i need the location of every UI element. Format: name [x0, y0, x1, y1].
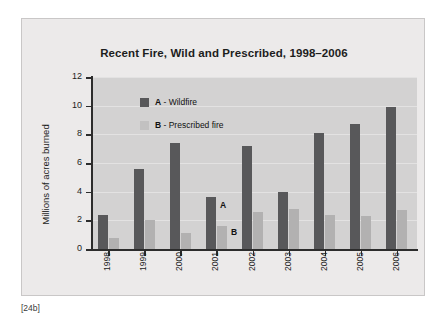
y-axis-tick — [86, 249, 92, 251]
chart-title: Recent Fire, Wild and Prescribed, 1998–2… — [22, 47, 426, 59]
data-point-label-a: A — [220, 200, 226, 210]
y-axis-tick-label: 12 — [42, 71, 82, 81]
x-axis-tick-label: 1999 — [138, 259, 150, 293]
bar-wildfire — [242, 146, 252, 249]
bar-prescribed-fire — [289, 209, 299, 249]
y-axis-tick — [86, 220, 92, 222]
x-axis-tick-label: 2006 — [391, 259, 403, 293]
bar-prescribed-fire — [397, 210, 407, 249]
data-point-label-b: B — [231, 227, 237, 237]
x-axis-tick-label: 2002 — [247, 259, 259, 293]
x-axis-tick-label-text: 2001 — [210, 259, 220, 271]
legend-item-prescribed-fire: B - Prescribed fire — [140, 120, 224, 130]
y-axis-title-text: Millions of acres burned — [40, 124, 51, 224]
bar-wildfire — [206, 197, 216, 249]
bar-wildfire — [98, 215, 108, 249]
bar-prescribed-fire — [217, 226, 227, 249]
x-axis-tick-label-text: 1998 — [102, 259, 112, 271]
bar-prescribed-fire — [181, 233, 191, 249]
x-axis-tick-label-text: 2004 — [319, 259, 329, 271]
x-axis-tick-label-text: 1999 — [138, 259, 148, 271]
bar-wildfire — [350, 124, 360, 249]
figure-panel: Recent Fire, Wild and Prescribed, 1998–2… — [21, 18, 425, 296]
legend-sep-prescribed-fire: - — [161, 120, 169, 130]
x-axis-tick-label: 1998 — [102, 259, 114, 293]
bar-wildfire — [134, 169, 144, 249]
legend-name-wildfire: Wildfire — [169, 97, 197, 107]
y-axis-tick — [86, 134, 92, 136]
x-axis-tick-label: 2000 — [174, 259, 186, 293]
legend-label-prescribed-fire: B - Prescribed fire — [155, 120, 224, 130]
y-axis-tick-label: 2 — [42, 214, 82, 224]
legend-sep-wildfire: - — [161, 97, 169, 107]
bar-wildfire — [170, 143, 180, 249]
gridline — [92, 163, 417, 164]
x-axis-tick-label: 2001 — [210, 259, 222, 293]
legend-item-wildfire: A - Wildfire — [140, 97, 224, 107]
chart-legend: A - Wildfire B - Prescribed fire — [140, 97, 224, 143]
legend-swatch-wildfire — [140, 98, 149, 107]
figure-caption: [24b] — [21, 303, 40, 313]
bar-prescribed-fire — [145, 220, 155, 249]
legend-name-prescribed-fire: Prescribed fire — [169, 120, 224, 130]
x-axis-tick-label-text: 2003 — [283, 259, 293, 271]
x-axis-line — [91, 249, 418, 251]
y-axis-tick-label: 6 — [42, 157, 82, 167]
bar-prescribed-fire — [253, 212, 263, 249]
gridline — [92, 77, 417, 78]
legend-label-wildfire: A - Wildfire — [155, 97, 197, 107]
legend-swatch-prescribed-fire — [140, 121, 149, 130]
x-axis-tick-label: 2005 — [355, 259, 367, 293]
x-axis-tick-label-text: 2006 — [391, 259, 401, 271]
x-axis-tick-label: 2003 — [283, 259, 295, 293]
y-axis-tick — [86, 192, 92, 194]
bar-wildfire — [278, 192, 288, 249]
bar-wildfire — [386, 107, 396, 249]
y-axis-tick — [86, 77, 92, 79]
y-axis-title: Millions of acres burned — [38, 87, 52, 262]
bar-prescribed-fire — [361, 216, 371, 249]
x-axis-tick-label: 2004 — [319, 259, 331, 293]
y-axis-tick-label: 8 — [42, 128, 82, 138]
bar-wildfire — [314, 133, 324, 249]
bar-prescribed-fire — [109, 238, 119, 249]
x-axis-tick-label-text: 2005 — [355, 259, 365, 271]
bar-prescribed-fire — [325, 215, 335, 249]
x-axis-tick-label-text: 2002 — [247, 259, 257, 271]
x-axis-tick-label-text: 2000 — [174, 259, 184, 271]
y-axis-tick-label: 0 — [42, 243, 82, 253]
y-axis-tick-label: 4 — [42, 186, 82, 196]
y-axis-tick-label: 10 — [42, 100, 82, 110]
y-axis-tick — [86, 163, 92, 165]
y-axis-tick — [86, 106, 92, 108]
